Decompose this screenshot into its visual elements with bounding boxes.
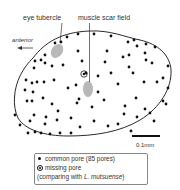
common-pore xyxy=(106,50,109,53)
legend-comparing-prefix: (comparing with xyxy=(37,173,84,180)
eye-tubercle-leader xyxy=(60,23,62,43)
common-pore xyxy=(49,133,52,136)
common-pore xyxy=(124,105,127,108)
common-pore xyxy=(34,131,37,134)
common-pore xyxy=(167,87,170,90)
common-pore xyxy=(75,84,78,87)
common-pore xyxy=(53,79,56,82)
common-pore xyxy=(122,56,125,59)
common-pore xyxy=(145,59,148,62)
common-pore xyxy=(32,91,35,94)
common-pore xyxy=(110,35,113,38)
common-pore xyxy=(110,72,113,75)
common-pore xyxy=(40,132,43,135)
common-pore xyxy=(31,82,34,85)
missing-pore-symbol-icon xyxy=(37,165,43,171)
common-pore xyxy=(85,72,88,75)
common-pore xyxy=(77,33,80,36)
common-pore xyxy=(149,112,152,115)
common-pore xyxy=(123,113,126,116)
common-pore xyxy=(29,120,32,123)
common-pore xyxy=(151,62,154,65)
common-pore xyxy=(33,114,36,117)
common-pore xyxy=(79,126,82,129)
common-pore xyxy=(81,60,84,63)
common-pore xyxy=(91,106,94,109)
scale-bar xyxy=(132,135,160,137)
common-pore xyxy=(62,64,65,67)
common-pore xyxy=(77,50,80,53)
legend-common-pore-text: common pore (85 pores) xyxy=(45,156,115,162)
common-pore xyxy=(132,72,135,75)
common-pore xyxy=(143,81,146,84)
carapace-outline xyxy=(14,31,171,136)
common-pore xyxy=(70,117,73,120)
common-pore xyxy=(59,132,62,135)
common-pore xyxy=(130,130,133,133)
common-pore xyxy=(36,81,39,84)
common-pore xyxy=(24,89,27,92)
common-pore xyxy=(136,116,139,119)
common-pore xyxy=(51,103,54,106)
common-pore xyxy=(27,132,30,135)
muscle-scar-field-label: muscle scar field xyxy=(78,14,130,21)
common-pore xyxy=(40,59,43,62)
scale-bar-label: 0.1mm xyxy=(136,142,154,148)
common-pore xyxy=(165,103,168,106)
common-pore xyxy=(26,100,29,103)
common-pore xyxy=(107,125,110,128)
common-pore xyxy=(14,114,17,117)
common-pore xyxy=(60,41,63,44)
common-pore-symbol-icon xyxy=(38,157,41,160)
common-pore xyxy=(42,97,45,100)
common-pore xyxy=(154,46,157,49)
common-pore xyxy=(117,83,120,86)
common-pore xyxy=(103,99,106,102)
common-pore xyxy=(44,62,47,65)
common-pore xyxy=(135,97,138,100)
common-pore xyxy=(136,45,139,48)
anterior-label: anterior xyxy=(12,37,33,43)
common-pore xyxy=(97,91,100,94)
common-pore xyxy=(56,119,59,122)
common-pore xyxy=(54,42,57,45)
common-pore xyxy=(44,123,47,126)
common-pore xyxy=(93,33,96,36)
legend-comparing-suffix: ) xyxy=(122,173,124,180)
common-pore xyxy=(153,120,156,123)
common-pore xyxy=(76,102,79,105)
common-pore xyxy=(33,67,36,70)
legend-missing-pore-text: missing pore xyxy=(45,165,81,171)
legend-comparing-note: (comparing with L. mutsuense) xyxy=(37,174,124,180)
common-pore xyxy=(25,79,28,82)
common-pore xyxy=(104,61,107,64)
eye-tubercle xyxy=(48,42,66,61)
common-pore xyxy=(97,75,100,78)
common-pore xyxy=(144,52,147,55)
common-pore xyxy=(57,110,60,113)
common-pore xyxy=(144,108,147,111)
common-pore xyxy=(133,39,136,42)
common-pore xyxy=(70,132,73,135)
common-pore xyxy=(78,98,81,101)
common-pore xyxy=(51,65,54,68)
common-pore xyxy=(66,36,69,39)
common-pore xyxy=(156,81,159,84)
common-pore xyxy=(31,100,34,103)
common-pore xyxy=(162,77,165,80)
common-pore xyxy=(128,54,131,57)
common-pore xyxy=(93,120,96,123)
common-pore xyxy=(145,43,148,46)
legend: common pore (85 pores) missing pore (com… xyxy=(34,153,148,185)
muscle-scar-field xyxy=(83,81,93,97)
legend-comparing-species: L. mutsuense xyxy=(84,173,122,180)
common-pore xyxy=(19,124,22,127)
common-pore xyxy=(43,81,46,84)
common-pore xyxy=(44,54,47,57)
eye-tubercle-label: eye tubercle xyxy=(23,14,61,21)
common-pore xyxy=(127,41,130,44)
common-pore xyxy=(67,87,70,90)
common-pore xyxy=(34,60,37,63)
common-pore xyxy=(162,100,165,103)
common-pore xyxy=(167,65,170,68)
